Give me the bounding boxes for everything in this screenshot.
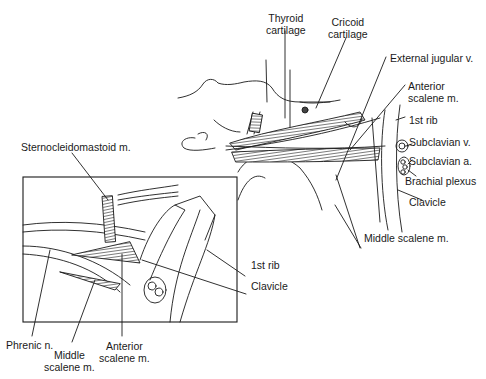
label-cricoid-cartilage: Cricoid cartilage xyxy=(328,16,368,40)
label-inset-anterior-scalene-m: Anterior scalene m. xyxy=(99,340,150,364)
label-line: scalene m. xyxy=(99,352,150,364)
label-inset-middle-scalene-m: Middle scalene m. xyxy=(44,349,95,373)
label-line: cartilage xyxy=(328,28,368,40)
label-subclavian-v: Subclavian v. xyxy=(409,136,471,148)
label-inset-1st-rib: 1st rib xyxy=(251,259,280,271)
label-line: Anterior xyxy=(408,80,459,92)
label-clavicle: Clavicle xyxy=(409,196,446,208)
label-external-jugular-v: External jugular v. xyxy=(390,52,473,64)
label-line: Anterior xyxy=(99,340,150,352)
label-line: scalene m. xyxy=(408,92,459,104)
label-middle-scalene-m: Middle scalene m. xyxy=(364,232,449,244)
label-line: cartilage xyxy=(266,24,306,36)
anatomy-figure: Thyroid cartilage Cricoid cartilage Exte… xyxy=(0,0,486,379)
label-line: Thyroid xyxy=(266,12,306,24)
label-line: Middle xyxy=(44,349,95,361)
label-anterior-scalene-m: Anterior scalene m. xyxy=(408,80,459,104)
label-subclavian-a: Subclavian a. xyxy=(409,155,472,167)
label-thyroid-cartilage: Thyroid cartilage xyxy=(266,12,306,36)
label-1st-rib: 1st rib xyxy=(409,114,438,126)
label-line: scalene m. xyxy=(44,361,95,373)
label-sternocleidomastoid-m: Sternocleidomastoid m. xyxy=(21,141,131,153)
label-line: Cricoid xyxy=(328,16,368,28)
label-inset-clavicle: Clavicle xyxy=(251,280,288,292)
label-brachial-plexus: Brachial plexus xyxy=(405,175,476,187)
